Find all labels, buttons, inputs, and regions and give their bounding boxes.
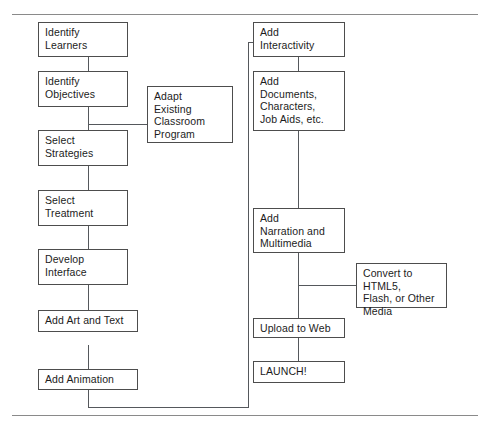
node-identify-objectives[interactable]: Identify Objectives [38, 71, 128, 107]
connector-upload-to-launch [298, 337, 299, 361]
connector-animation-loop-up [248, 42, 249, 408]
connector-animation-loop-across [88, 407, 249, 408]
node-add-animation[interactable]: Add Animation [38, 369, 138, 390]
connector-interactivity-to-documents [298, 57, 299, 71]
connector-documents-to-narration [298, 131, 299, 208]
node-add-documents-characters-job-aids[interactable]: Add Documents, Characters, Job Aids, etc… [253, 71, 345, 131]
node-adapt-existing-classroom-program[interactable]: Adapt Existing Classroom Program [147, 86, 233, 143]
node-launch[interactable]: LAUNCH! [253, 361, 345, 383]
node-add-narration-and-multimedia[interactable]: Add Narration and Multimedia [253, 208, 345, 253]
connector-objectives-to-strategies [88, 107, 89, 130]
connector-strategies-to-treatment [88, 166, 89, 190]
node-select-treatment[interactable]: Select Treatment [38, 190, 128, 226]
connector-animation-loop-down [88, 389, 89, 408]
node-add-art-and-text[interactable]: Add Art and Text [38, 310, 138, 332]
connector-treatment-to-interface [88, 226, 89, 249]
connector-art-to-animation [88, 345, 89, 369]
node-select-strategies[interactable]: Select Strategies [38, 130, 128, 166]
node-add-interactivity[interactable]: Add Interactivity [253, 22, 345, 57]
connector-interface-to-art [88, 285, 89, 310]
top-divider-rule [12, 14, 478, 15]
connector-branch-to-convert-note [298, 285, 356, 286]
connector-learners-to-objectives [88, 57, 89, 71]
node-convert-to-html5-flash-or-other-media[interactable]: Convert to HTML5, Flash, or Other Media [356, 263, 447, 308]
node-develop-interface[interactable]: Develop Interface [38, 249, 128, 285]
node-upload-to-web[interactable]: Upload to Web [253, 318, 345, 338]
node-identify-learners[interactable]: Identify Learners [38, 22, 128, 57]
connector-branch-to-adapt-note [88, 124, 148, 125]
flowchart-canvas: Identify Learners Identify Objectives Se… [0, 0, 491, 434]
bottom-divider-rule [12, 415, 478, 416]
